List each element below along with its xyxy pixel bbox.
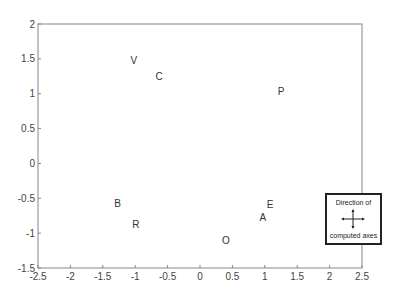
point-label-r: R bbox=[132, 219, 139, 230]
point-label-c: C bbox=[156, 71, 163, 82]
x-tick-label: 1 bbox=[262, 271, 268, 282]
legend-title: Direction of bbox=[327, 199, 380, 206]
y-tick-label: -1 bbox=[26, 228, 35, 239]
axes-direction-legend: Direction of computed axes bbox=[325, 193, 382, 245]
legend-footer: computed axes bbox=[327, 232, 380, 239]
x-tick-label: 0 bbox=[197, 271, 203, 282]
four-way-arrow-icon bbox=[341, 209, 365, 229]
x-tick-label: 2.5 bbox=[355, 271, 369, 282]
y-tick-label: 1 bbox=[29, 88, 35, 99]
y-tick-label: 2 bbox=[29, 19, 35, 30]
point-label-p: P bbox=[278, 86, 285, 97]
x-tick-label: 0.5 bbox=[225, 271, 239, 282]
point-label-o: O bbox=[222, 235, 230, 246]
plot-frame bbox=[38, 24, 362, 268]
y-tick-label: -0.5 bbox=[18, 193, 36, 204]
x-tick-label: 1.5 bbox=[290, 271, 304, 282]
y-tick-label: 1.5 bbox=[21, 53, 35, 64]
x-tick-label: -1.5 bbox=[94, 271, 112, 282]
x-tick-label: -1 bbox=[131, 271, 140, 282]
y-tick-label: 0.5 bbox=[21, 123, 35, 134]
point-label-b: B bbox=[114, 198, 121, 209]
point-label-e: E bbox=[267, 199, 274, 210]
x-tick-label: 2 bbox=[327, 271, 333, 282]
data-points: VCPBREAO bbox=[114, 55, 284, 246]
point-label-a: A bbox=[260, 212, 267, 223]
y-tick-label: 0 bbox=[29, 158, 35, 169]
x-tick-label: -0.5 bbox=[159, 271, 177, 282]
scatter-chart: -2.5-2-1.5-1-0.500.511.522.5 -1.5-1-0.50… bbox=[0, 0, 405, 301]
x-tick-label: -2 bbox=[66, 271, 75, 282]
point-label-v: V bbox=[131, 55, 138, 66]
y-tick-label: -1.5 bbox=[18, 263, 36, 274]
